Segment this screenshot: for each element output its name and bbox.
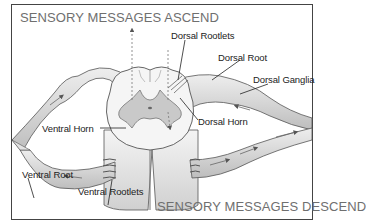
heading-descend: SENSORY MESSAGES DESCEND [157,199,366,214]
right-ventral-root [190,128,312,178]
label-dorsal-ganglia: Dorsal Ganglia [253,74,314,85]
label-ventral-root: Ventral Root [22,169,73,180]
label-dorsal-horn: Dorsal Horn [198,116,248,127]
label-dorsal-root: Dorsal Root [218,52,267,63]
label-dorsal-rootlets: Dorsal Rootlets [171,30,234,41]
heading-ascend: SENSORY MESSAGES ASCEND [20,10,219,25]
label-ventral-horn: Ventral Horn [42,123,94,134]
label-ventral-rootlets: Ventral Rootlets [78,186,143,197]
